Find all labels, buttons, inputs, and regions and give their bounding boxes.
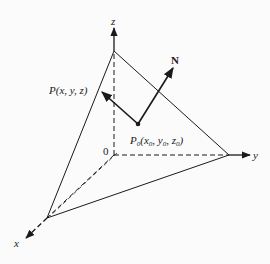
normal-vector-n xyxy=(138,68,173,124)
plane-edge-z-x xyxy=(47,51,114,218)
normal-label: N xyxy=(171,54,179,66)
z-axis-label: z xyxy=(110,15,116,27)
vector-p0-to-p xyxy=(102,92,138,124)
plane-diagram: z y x 0 N P(x, y, z) P0(x0, y0, z0) xyxy=(0,0,270,264)
point-p0-label: P0(x0, y0, z0) xyxy=(129,134,183,148)
x-axis-arrow xyxy=(26,218,47,238)
point-p-label: P(x, y, z) xyxy=(48,84,88,97)
point-p0-dot xyxy=(136,122,141,127)
x-axis-label: x xyxy=(13,237,19,249)
y-axis-label: y xyxy=(252,149,258,161)
origin-label: 0 xyxy=(103,145,109,157)
plane-edge-x-y xyxy=(47,155,229,218)
x-axis-dashed xyxy=(47,155,114,218)
